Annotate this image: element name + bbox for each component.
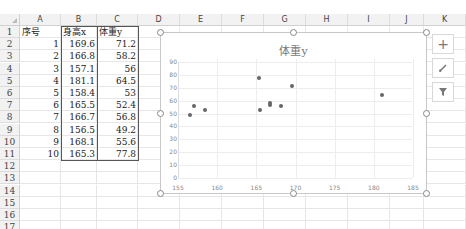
cell[interactable] (424, 197, 466, 209)
cell[interactable] (424, 172, 466, 184)
scatter-chart[interactable]: 体重y 908070605040302010015516016517017518… (160, 32, 427, 194)
cell[interactable] (20, 209, 61, 221)
cell[interactable] (180, 197, 222, 209)
cell[interactable] (222, 209, 264, 221)
data-point[interactable] (268, 103, 272, 107)
cell[interactable] (348, 197, 390, 209)
row-header-17[interactable]: 17 (0, 221, 20, 229)
cell[interactable] (222, 197, 264, 209)
cell[interactable] (306, 197, 348, 209)
row-header-6[interactable]: 6 (0, 87, 20, 99)
cell-weight[interactable]: 71.2 (97, 38, 138, 50)
cell[interactable] (424, 185, 466, 197)
row-header-10[interactable]: 10 (0, 136, 20, 148)
cell-height[interactable]: 166.7 (61, 111, 97, 123)
header-cell-index[interactable]: 序号 (20, 26, 61, 38)
row-header-11[interactable]: 11 (0, 148, 20, 160)
cell-height[interactable]: 157.1 (61, 63, 97, 75)
row-header-3[interactable]: 3 (0, 50, 20, 62)
cell[interactable] (180, 209, 222, 221)
chart-elements-button[interactable]: + (432, 34, 454, 54)
chart-title[interactable]: 体重y (161, 42, 426, 58)
row-header-7[interactable]: 7 (0, 99, 20, 111)
cell-weight[interactable]: 55.6 (97, 136, 138, 148)
cell[interactable] (97, 172, 138, 184)
cell-height[interactable]: 156.5 (61, 124, 97, 136)
cell-weight[interactable]: 58.2 (97, 50, 138, 62)
resize-handle[interactable] (423, 190, 430, 197)
cell[interactable] (97, 160, 138, 172)
data-point[interactable] (203, 108, 207, 112)
data-point[interactable] (279, 104, 283, 108)
data-point[interactable] (188, 113, 192, 117)
cell[interactable] (390, 197, 424, 209)
cell-height[interactable]: 158.4 (61, 87, 97, 99)
cell-height[interactable]: 165.5 (61, 99, 97, 111)
header-cell-height[interactable]: 身高x (61, 26, 97, 38)
cell[interactable] (61, 197, 97, 209)
cell[interactable] (61, 172, 97, 184)
cell-index[interactable]: 6 (20, 99, 61, 111)
cell-weight[interactable]: 64.5 (97, 75, 138, 87)
data-point[interactable] (257, 76, 261, 80)
column-header-C[interactable]: C (97, 14, 138, 26)
row-header-5[interactable]: 5 (0, 75, 20, 87)
data-point[interactable] (380, 93, 384, 97)
header-cell-weight[interactable]: 体重y (97, 26, 138, 38)
cell-index[interactable]: 8 (20, 124, 61, 136)
column-header-F[interactable]: F (222, 14, 264, 26)
cell[interactable] (348, 209, 390, 221)
cell-index[interactable]: 3 (20, 63, 61, 75)
cell-weight[interactable]: 52.4 (97, 99, 138, 111)
cell[interactable] (61, 209, 97, 221)
cell[interactable] (138, 221, 180, 229)
select-all-corner[interactable] (0, 14, 20, 26)
cell-weight[interactable]: 53 (97, 87, 138, 99)
cell[interactable] (20, 172, 61, 184)
column-header-E[interactable]: E (180, 14, 222, 26)
resize-handle[interactable] (423, 29, 430, 36)
cell-index[interactable]: 4 (20, 75, 61, 87)
data-point[interactable] (258, 108, 262, 112)
cell[interactable] (61, 160, 97, 172)
row-header-15[interactable]: 15 (0, 197, 20, 209)
row-header-2[interactable]: 2 (0, 38, 20, 50)
cell[interactable] (61, 185, 97, 197)
cell-height[interactable]: 168.1 (61, 136, 97, 148)
cell[interactable] (138, 197, 180, 209)
column-header-I[interactable]: I (348, 14, 390, 26)
row-header-13[interactable]: 13 (0, 172, 20, 184)
cell-index[interactable]: 5 (20, 87, 61, 99)
cell[interactable] (264, 221, 306, 229)
row-header-16[interactable]: 16 (0, 209, 20, 221)
data-point[interactable] (192, 104, 196, 108)
cell[interactable] (424, 136, 466, 148)
column-header-G[interactable]: G (264, 14, 306, 26)
cell[interactable] (20, 160, 61, 172)
resize-handle[interactable] (423, 110, 430, 117)
resize-handle[interactable] (290, 190, 297, 197)
cell-index[interactable]: 1 (20, 38, 61, 50)
cell[interactable] (97, 209, 138, 221)
row-header-4[interactable]: 4 (0, 63, 20, 75)
cell[interactable] (424, 160, 466, 172)
cell[interactable] (20, 221, 61, 229)
cell[interactable] (97, 185, 138, 197)
cell[interactable] (306, 221, 348, 229)
resize-handle[interactable] (157, 190, 164, 197)
cell[interactable] (424, 221, 466, 229)
cell-height[interactable]: 166.8 (61, 50, 97, 62)
cell-index[interactable]: 2 (20, 50, 61, 62)
resize-handle[interactable] (290, 29, 297, 36)
cell[interactable] (138, 209, 180, 221)
cell[interactable] (424, 209, 466, 221)
row-header-9[interactable]: 9 (0, 124, 20, 136)
cell[interactable] (424, 111, 466, 123)
cell-index[interactable]: 10 (20, 148, 61, 160)
cell[interactable] (97, 221, 138, 229)
cell[interactable] (348, 221, 390, 229)
cell[interactable] (20, 185, 61, 197)
resize-handle[interactable] (157, 110, 164, 117)
cell[interactable] (424, 148, 466, 160)
column-header-H[interactable]: H (306, 14, 348, 26)
